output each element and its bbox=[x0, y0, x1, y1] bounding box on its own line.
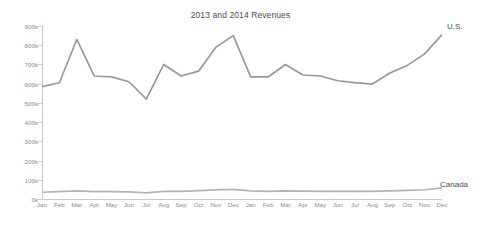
x-tick-label: Sep bbox=[176, 201, 187, 208]
y-tick-label: 600k bbox=[4, 80, 38, 87]
x-tick-label: Aug bbox=[158, 201, 169, 208]
y-tick-label: 100k bbox=[4, 176, 38, 183]
x-tick-label: Oct bbox=[402, 201, 412, 208]
x-tick-label: Jun bbox=[124, 201, 134, 208]
y-tick-label: 0k bbox=[4, 196, 38, 203]
x-tick-label: May bbox=[106, 201, 118, 208]
x-tick-label: Jun bbox=[333, 201, 343, 208]
x-tick-label: Dec bbox=[436, 201, 447, 208]
x-tick-label: Feb bbox=[263, 201, 274, 208]
x-tick-label: Oct bbox=[194, 201, 204, 208]
x-tick-label: Jan bbox=[246, 201, 256, 208]
revenue-line-chart: 2013 and 2014 Revenues 900k800k700k600k5… bbox=[0, 0, 481, 225]
x-tick-label: Aug bbox=[367, 201, 378, 208]
series-label-canada: Canada bbox=[440, 180, 468, 189]
x-tick-label: May bbox=[314, 201, 326, 208]
x-tick-label: Sep bbox=[384, 201, 395, 208]
y-axis: 900k800k700k600k500k400k300k200k100k0k bbox=[0, 0, 38, 225]
y-tick-label: 400k bbox=[4, 119, 38, 126]
x-tick-label: Mar bbox=[280, 201, 291, 208]
x-tick-label: Nov bbox=[210, 201, 221, 208]
plot-area bbox=[42, 26, 442, 199]
x-tick-label: Dec bbox=[228, 201, 239, 208]
y-tick-label: 800k bbox=[4, 42, 38, 49]
x-tick-label: Jan bbox=[37, 201, 47, 208]
series-line-u-s bbox=[42, 35, 442, 99]
y-tick-label: 500k bbox=[4, 99, 38, 106]
x-tick-label: Feb bbox=[54, 201, 65, 208]
chart-title: 2013 and 2014 Revenues bbox=[0, 10, 481, 20]
x-tick-label: Jul bbox=[142, 201, 150, 208]
x-tick-label: Nov bbox=[419, 201, 430, 208]
y-tick-label: 700k bbox=[4, 61, 38, 68]
y-tick-label: 300k bbox=[4, 138, 38, 145]
x-tick-label: Apr bbox=[298, 201, 308, 208]
series-label-us: U.S. bbox=[447, 22, 463, 31]
y-tick-label: 200k bbox=[4, 157, 38, 164]
x-tick-label: Apr bbox=[89, 201, 99, 208]
series-lines bbox=[42, 26, 442, 199]
y-tick-label: 900k bbox=[4, 23, 38, 30]
x-tick-label: Mar bbox=[71, 201, 82, 208]
series-line-canada bbox=[42, 188, 442, 193]
x-tick-label: Jul bbox=[351, 201, 359, 208]
